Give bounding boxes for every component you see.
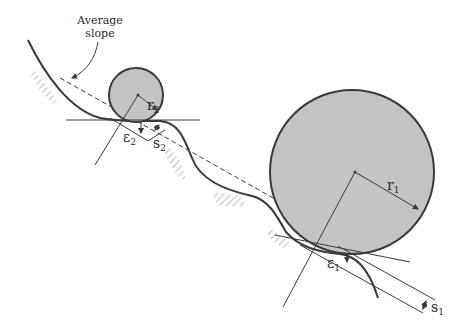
label-s1: s1 (431, 299, 444, 317)
annotation-line2: slope (85, 27, 114, 40)
label-epsilon1: ε1 (327, 255, 340, 273)
diagram-canvas: Average slope r2 ε2 s2 r1 ε1 s1 (0, 0, 462, 333)
slope-diagram: Average slope r2 ε2 s2 r1 ε1 s1 (0, 0, 462, 333)
annotation-arrow (72, 42, 98, 78)
annotation-line1: Average (76, 14, 123, 27)
large-wheel (270, 90, 434, 254)
label-epsilon2: ε2 (123, 129, 136, 147)
label-s2: s2 (153, 135, 166, 153)
